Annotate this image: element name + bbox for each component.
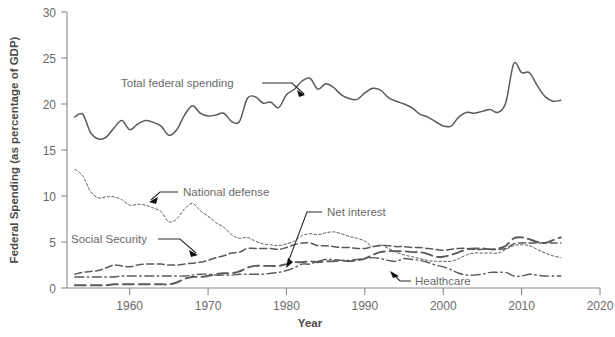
total-federal-spending-series bbox=[75, 62, 561, 139]
y-tick-label: 20 bbox=[43, 98, 57, 112]
x-axis-title: Year bbox=[298, 317, 323, 329]
federal-spending-line-chart: 051015202530 196019701980199020002010202… bbox=[0, 0, 615, 337]
x-tick-label: 1990 bbox=[352, 299, 379, 313]
x-tick-label: 1970 bbox=[195, 299, 222, 313]
national-defense-series bbox=[75, 169, 561, 261]
chart-container: 051015202530 196019701980199020002010202… bbox=[0, 0, 615, 337]
x-tick-labels: 1960197019801990200020102020 bbox=[116, 299, 613, 313]
annotation-total: Total federal spending bbox=[121, 77, 305, 97]
net-interest-series bbox=[75, 258, 561, 277]
y-tick-label: 0 bbox=[49, 282, 56, 296]
y-tick-label: 30 bbox=[43, 6, 57, 20]
y-axis-title: Federal Spending (as percentage of GDP) bbox=[8, 36, 20, 263]
y-tick-label: 15 bbox=[43, 144, 57, 158]
data-series-group bbox=[75, 62, 561, 285]
arrowhead-interest bbox=[286, 258, 293, 268]
annotation-label-health: Healthcare bbox=[415, 275, 471, 287]
annotation-interest: Net interest bbox=[286, 206, 387, 268]
annotation-defense: National defense bbox=[149, 186, 269, 204]
y-tick-label: 10 bbox=[43, 190, 57, 204]
annotation-social: Social Security bbox=[71, 233, 198, 257]
arrowhead-health bbox=[390, 271, 399, 278]
annotation-label-total: Total federal spending bbox=[121, 77, 234, 89]
social-security-series bbox=[75, 243, 561, 275]
x-tick-label: 2000 bbox=[430, 299, 457, 313]
x-tick-label: 1980 bbox=[273, 299, 300, 313]
y-tick-label: 25 bbox=[43, 52, 57, 66]
y-axis-ticks bbox=[61, 12, 67, 288]
annotation-label-interest: Net interest bbox=[327, 206, 387, 218]
x-tick-label: 2010 bbox=[508, 299, 535, 313]
x-axis-ticks bbox=[130, 288, 600, 295]
annotation-label-defense: National defense bbox=[183, 186, 269, 198]
x-tick-label: 1960 bbox=[116, 299, 143, 313]
axes-group bbox=[61, 12, 600, 295]
x-tick-label: 2020 bbox=[587, 299, 614, 313]
y-tick-labels: 051015202530 bbox=[43, 6, 57, 296]
annotation-label-social: Social Security bbox=[71, 233, 147, 245]
y-tick-label: 5 bbox=[49, 236, 56, 250]
